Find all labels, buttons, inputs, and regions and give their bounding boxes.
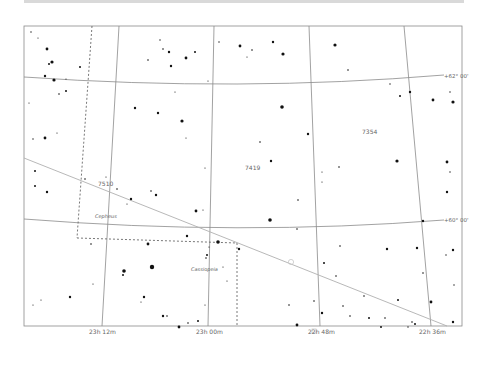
region-label-7419: 7419 xyxy=(245,164,260,171)
region-label-7354: 7354 xyxy=(362,128,377,135)
ra-label-22h36m: 22h 36m xyxy=(419,328,446,335)
dec-label-60: +60° 00' xyxy=(444,217,469,223)
chart-frame xyxy=(24,26,462,326)
dec-label-62: +62° 00' xyxy=(444,73,469,79)
star-chart[interactable]: 7510 7419 7354 Cepheus Cassiopeia +62° 0… xyxy=(0,0,489,372)
constellation-label-cepheus: Cepheus xyxy=(95,213,117,220)
ra-label-22h48m: 22h 48m xyxy=(308,328,335,335)
ra-label-23h12m: 23h 12m xyxy=(89,328,116,335)
ra-labels: 23h 12m 23h 00m 22h 48m 22h 36m xyxy=(89,328,446,335)
ra-label-23h00m: 23h 00m xyxy=(196,328,223,335)
constellation-label-cassiopeia: Cassiopeia xyxy=(191,266,218,273)
region-label-7510: 7510 xyxy=(98,180,113,187)
